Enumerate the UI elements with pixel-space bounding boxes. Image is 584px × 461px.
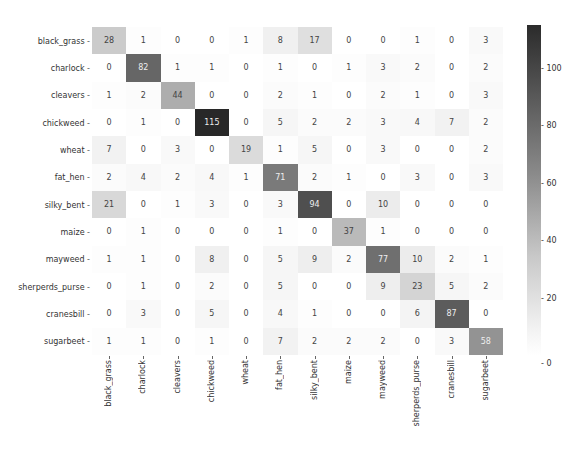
heatmap-cell: 0	[229, 54, 263, 81]
heatmap-cell: 2	[298, 164, 332, 191]
y-axis-label: charlock	[51, 64, 90, 73]
heatmap-cell: 3	[366, 54, 400, 81]
heatmap-cell: 0	[195, 136, 229, 163]
y-axis-label: cranesbill	[46, 310, 90, 319]
heatmap-cell: 2	[92, 164, 126, 191]
heatmap-cell: 3	[126, 300, 160, 327]
heatmap-cell: 19	[229, 136, 263, 163]
heatmap-cell: 1	[126, 246, 160, 273]
x-axis-tick	[246, 356, 247, 359]
heatmap-cell: 0	[92, 300, 126, 327]
heatmap-cell: 1	[400, 82, 434, 109]
heatmap-cell: 2	[161, 164, 195, 191]
heatmap-cell: 3	[195, 191, 229, 218]
heatmap-cell: 0	[161, 218, 195, 245]
heatmap-cell: 1	[126, 109, 160, 136]
heatmap-cell: 3	[366, 136, 400, 163]
heatmap-cell: 28	[92, 27, 126, 54]
heatmap-cell: 2	[332, 328, 366, 355]
colorbar-tick-label: - 20	[541, 293, 557, 302]
heatmap-cell: 0	[366, 27, 400, 54]
heatmap-cell: 0	[298, 273, 332, 300]
heatmap-cell: 94	[298, 191, 332, 218]
heatmap-cell: 10	[400, 246, 434, 273]
heatmap-cell: 0	[435, 27, 469, 54]
heatmap-cell: 1	[366, 218, 400, 245]
colorbar-tick-label: - 0	[541, 359, 552, 368]
colorbar-tick-label: - 60	[541, 178, 557, 187]
heatmap-cell: 1	[126, 328, 160, 355]
x-axis-label: black_grass	[104, 360, 113, 407]
heatmap-cell: 2	[366, 82, 400, 109]
heatmap-cell: 5	[263, 109, 297, 136]
heatmap-cell: 2	[469, 109, 503, 136]
y-axis-label: maize	[61, 228, 90, 237]
heatmap-cell: 1	[195, 54, 229, 81]
heatmap-cell: 1	[298, 82, 332, 109]
heatmap-cell: 2	[263, 82, 297, 109]
heatmap-cell: 0	[332, 273, 366, 300]
heatmap-cell: 3	[400, 164, 434, 191]
x-axis-label: mayweed	[378, 360, 387, 399]
colorbar-tick-label: - 80	[541, 121, 557, 130]
heatmap-cell: 2	[469, 54, 503, 81]
heatmap-cell: 1	[195, 328, 229, 355]
heatmap-cell: 1	[263, 136, 297, 163]
heatmap-cell: 7	[435, 109, 469, 136]
heatmap-cell: 0	[195, 27, 229, 54]
x-axis-tick	[486, 356, 487, 359]
heatmap-cell: 0	[400, 136, 434, 163]
heatmap-cell: 5	[298, 136, 332, 163]
x-axis-label: fat_hen	[275, 360, 284, 390]
heatmap-cell: 5	[263, 273, 297, 300]
heatmap-cell: 0	[400, 328, 434, 355]
heatmap-cell: 0	[161, 328, 195, 355]
x-axis-label: cleavers	[173, 360, 182, 394]
heatmap-cell: 0	[161, 246, 195, 273]
heatmap-cell: 4	[263, 300, 297, 327]
heatmap-cell: 87	[435, 300, 469, 327]
heatmap-cell: 2	[435, 246, 469, 273]
heatmap-cell: 0	[229, 246, 263, 273]
heatmap-cell: 2	[469, 273, 503, 300]
heatmap-cell: 1	[332, 164, 366, 191]
x-axis-tick	[280, 356, 281, 359]
heatmap-cell: 7	[263, 328, 297, 355]
heatmap-cell: 1	[161, 54, 195, 81]
y-axis-label: wheat	[60, 146, 90, 155]
heatmap-cell: 0	[469, 300, 503, 327]
heatmap-cell: 0	[435, 136, 469, 163]
x-axis-label: charlock	[138, 360, 147, 394]
x-axis-tick	[417, 356, 418, 359]
y-axis-label: sherperds_purse	[18, 282, 90, 291]
heatmap-cell: 82	[126, 54, 160, 81]
heatmap-cell: 0	[469, 218, 503, 245]
heatmap-cell: 21	[92, 191, 126, 218]
heatmap-cell: 71	[263, 164, 297, 191]
heatmap-cell: 0	[435, 164, 469, 191]
heatmap-cell: 0	[92, 54, 126, 81]
heatmap-cell: 0	[229, 191, 263, 218]
y-axis-label: sugarbeet	[44, 337, 90, 346]
heatmap-cell: 0	[161, 300, 195, 327]
heatmap-cell: 3	[469, 27, 503, 54]
heatmap-cell: 1	[469, 246, 503, 273]
heatmap-cell: 0	[332, 136, 366, 163]
heatmap-cell: 3	[161, 136, 195, 163]
heatmap-cell: 0	[229, 109, 263, 136]
heatmap-cell: 2	[126, 82, 160, 109]
confusion-matrix-heatmap: 2810018170010308211010132021244002102103…	[92, 27, 503, 355]
heatmap-cell: 0	[366, 300, 400, 327]
heatmap-cell: 0	[229, 273, 263, 300]
heatmap-cell: 44	[161, 82, 195, 109]
heatmap-cell: 1	[92, 328, 126, 355]
heatmap-cell: 4	[126, 164, 160, 191]
heatmap-cell: 6	[400, 300, 434, 327]
heatmap-cell: 0	[435, 82, 469, 109]
colorbar-tick-label: - 100	[541, 64, 562, 73]
heatmap-cell: 1	[400, 27, 434, 54]
heatmap-cell: 0	[92, 109, 126, 136]
heatmap-cell: 0	[161, 109, 195, 136]
heatmap-cell: 0	[92, 218, 126, 245]
heatmap-cell: 2	[195, 273, 229, 300]
